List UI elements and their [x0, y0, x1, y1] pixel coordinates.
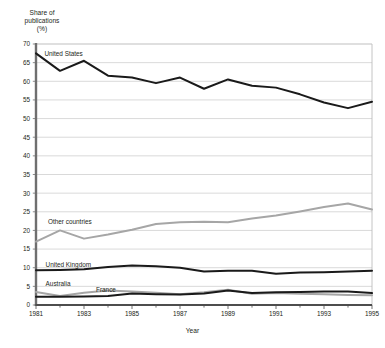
y-axis-tick-label: 35	[4, 171, 30, 178]
y-axis-tick-label: 65	[4, 59, 30, 66]
y-axis-tick-label: 5	[4, 283, 30, 290]
y-axis-tick-label: 45	[4, 134, 30, 141]
y-axis-tick-label: 10	[4, 264, 30, 271]
y-axis-tick-label: 20	[4, 227, 30, 234]
y-axis-tick-label: 15	[4, 245, 30, 252]
x-axis-tick-label: 1985	[112, 310, 152, 317]
x-axis-tick-label: 1987	[160, 310, 200, 317]
series-label-other-countries: Other countries	[48, 218, 92, 225]
x-axis-title: Year	[0, 327, 385, 334]
x-axis-tick-label: 1991	[256, 310, 296, 317]
series-label-united-kingdom: United Kingdom	[46, 261, 91, 268]
y-axis-tick-label: 70	[4, 40, 30, 47]
y-axis-tick-label: 30	[4, 190, 30, 197]
y-axis-tick-label: 60	[4, 78, 30, 85]
x-axis-tick-label: 1983	[64, 310, 104, 317]
y-axis-title: Share of publications (%)	[6, 9, 78, 34]
y-axis-tick-label: 40	[4, 152, 30, 159]
series-label-france: France	[96, 286, 116, 293]
series-label-united-states: United States	[44, 50, 82, 57]
x-axis-tick-label: 1981	[16, 310, 56, 317]
x-axis-tick-label: 1993	[304, 310, 344, 317]
x-axis-tick-label: 1989	[208, 310, 248, 317]
x-axis-tick-label: 1995	[352, 310, 385, 317]
y-axis-tick-label: 55	[4, 96, 30, 103]
series-label-australia: Australia	[46, 280, 71, 287]
y-axis-tick-label: 50	[4, 115, 30, 122]
publication-share-chart: Share of publications (%) Year 051015202…	[0, 0, 385, 348]
y-axis-tick-label: 25	[4, 208, 30, 215]
y-axis-tick-label: 0	[4, 301, 30, 308]
